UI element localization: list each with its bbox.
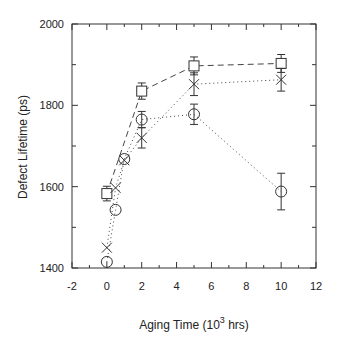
y-tick-label: 1800 — [40, 99, 64, 111]
y-tick-label: 1400 — [40, 262, 64, 274]
x-tick-label: 8 — [243, 280, 249, 292]
x-tick-label: 10 — [275, 280, 287, 292]
series-circle — [101, 104, 286, 267]
x-tick-label: 6 — [208, 280, 214, 292]
y-tick-label: 1600 — [40, 181, 64, 193]
square-marker — [137, 86, 147, 96]
x-tick-label: 4 — [174, 280, 180, 292]
x-axis-title: Aging Time (103 hrs) — [139, 315, 249, 332]
y-axis-title: Defect Lifetime (ps) — [16, 95, 30, 199]
x-tick-label: 2 — [139, 280, 145, 292]
plot-series — [101, 55, 286, 268]
square-marker — [102, 189, 112, 199]
square-marker — [189, 61, 199, 71]
x-tick-label: 0 — [104, 280, 110, 292]
y-tick-label: 2000 — [40, 18, 64, 30]
square-marker — [276, 58, 286, 68]
x-tick-label: -2 — [67, 280, 77, 292]
chart: -20246810121400160018002000 Defect Lifet… — [0, 0, 337, 342]
x-tick-label: 12 — [310, 280, 322, 292]
series-line — [107, 114, 281, 262]
